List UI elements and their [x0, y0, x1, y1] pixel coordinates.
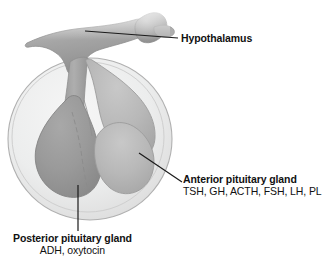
pituitary-gland-diagram: Hypothalamus Anterior pituitary gland TS…: [0, 0, 324, 259]
anatomy-illustration: [0, 0, 324, 259]
label-posterior-title: Posterior pituitary gland: [13, 232, 132, 244]
label-posterior-hormones: ADH, oxytocin: [13, 244, 132, 256]
label-hypothalamus-title: Hypothalamus: [181, 32, 252, 44]
label-posterior-pituitary: Posterior pituitary gland ADH, oxytocin: [13, 232, 132, 257]
label-anterior-title: Anterior pituitary gland: [183, 173, 322, 185]
label-anterior-hormones: TSH, GH, ACTH, FSH, LH, PL: [183, 185, 322, 197]
label-hypothalamus: Hypothalamus: [181, 32, 252, 44]
label-anterior-pituitary: Anterior pituitary gland TSH, GH, ACTH, …: [183, 173, 322, 198]
top-fade-overlay: [20, 6, 170, 40]
